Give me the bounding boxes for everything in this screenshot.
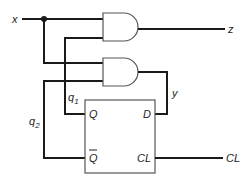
circuit-diagram: x z y Q Q D CL CL q1 q2 (0, 0, 249, 183)
input-x-label: x (11, 13, 18, 25)
and-gate-1 (103, 13, 138, 41)
x-branch-wire (44, 19, 103, 63)
pin-d-label: D (143, 108, 151, 120)
pin-q-label: Q (89, 108, 98, 120)
q1-label: q1 (68, 91, 79, 106)
output-z-label: z (227, 23, 234, 35)
pin-qbar-label: Q (89, 152, 98, 164)
input-clock-label: CL (226, 152, 240, 164)
and-gate-2 (103, 58, 138, 86)
q2-label: q2 (29, 115, 40, 130)
y-label: y (171, 87, 179, 99)
pin-cl-label: CL (137, 152, 151, 164)
